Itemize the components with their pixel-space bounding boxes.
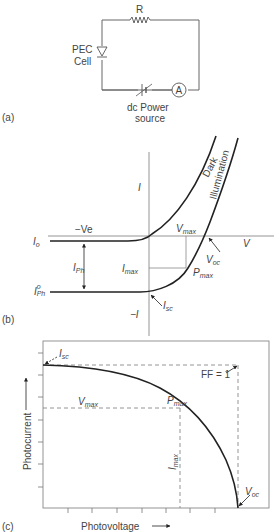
panel-a-tag: (a): [2, 112, 14, 123]
x-axis-label-c: Photovoltage: [81, 521, 140, 532]
circuit-diagram: R PEC Cell A dc Power source (a): [2, 4, 199, 124]
isc-label: Isc: [163, 300, 173, 312]
dashed-guides: [43, 365, 238, 508]
iph0-label: IoPh: [34, 283, 45, 297]
voc-label-c: Voc: [245, 486, 260, 498]
circuit-wire: [102, 20, 172, 90]
ammeter-label: A: [176, 85, 183, 96]
iv-curve-plot: Dark Illumination I −I V −Ve Io IPh IoPh…: [2, 136, 274, 336]
panel-b-tag: (b): [2, 314, 14, 325]
photocurrent-curve: [43, 365, 238, 508]
circuit-wire: [150, 20, 199, 90]
imax-label-c: Imax: [167, 453, 179, 470]
panel-c-tag: (c): [2, 521, 14, 532]
imax-label: Imax: [122, 263, 139, 275]
y-axis-label-c: Photocurrent: [22, 413, 33, 470]
vmax-label: Vmax: [176, 223, 196, 235]
y-axis-label: I: [138, 182, 141, 193]
source-label-1: dc Power: [127, 102, 169, 113]
y-ticks: [38, 353, 43, 487]
pmax-label: Pmax: [193, 267, 213, 279]
vmax-label-c: Vmax: [78, 396, 98, 408]
pmax-label-c: Pmax: [167, 395, 187, 407]
isc-label-c: Isc: [59, 348, 69, 360]
neg-voltage-label: −Ve: [75, 224, 93, 235]
resistor-icon: [130, 17, 150, 23]
iph-label: IPh: [73, 262, 84, 274]
voc-label: Voc: [206, 254, 221, 266]
figure: R PEC Cell A dc Power source (a): [0, 0, 278, 532]
fill-factor-plot: Isc FF = 1 Vmax Pmax Imax Voc Photovolta…: [2, 341, 269, 532]
pec-label: PEC: [72, 44, 93, 55]
x-ticks: [68, 508, 215, 513]
y-axis-neg-label: −I: [130, 309, 139, 320]
resistor-label: R: [136, 4, 143, 15]
source-label-2: source: [135, 113, 165, 124]
cell-label: Cell: [74, 56, 91, 67]
ff-label: FF = 1: [201, 369, 231, 380]
x-axis-label: V: [243, 238, 251, 249]
i0-label: Io: [33, 236, 40, 248]
